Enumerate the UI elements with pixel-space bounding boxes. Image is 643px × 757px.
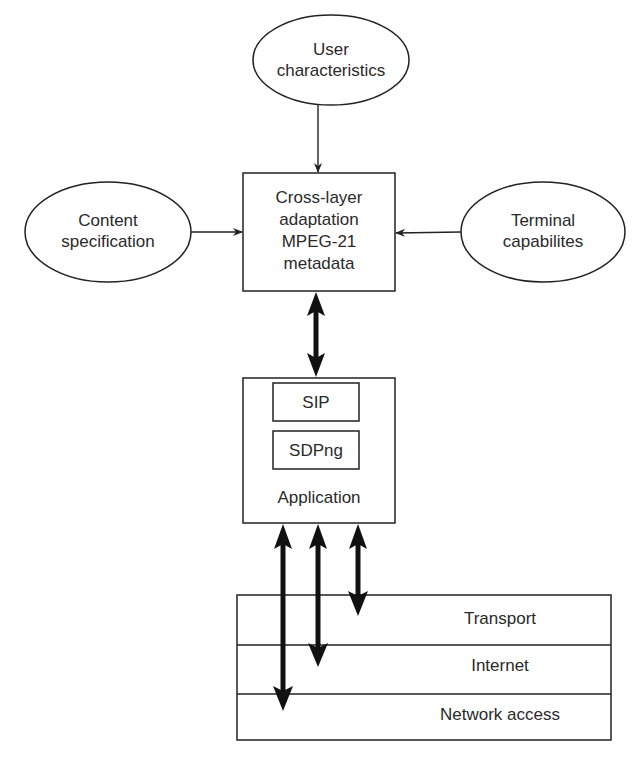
terminal-capabilities-label: Terminal capabilites	[461, 210, 625, 252]
adaptation-line3: MPEG-21	[243, 231, 395, 253]
diagram-canvas	[0, 0, 643, 757]
arrow-terminal-to-adaptation	[396, 232, 461, 233]
sdpng-label: SDPng	[273, 440, 359, 461]
application-label: Application	[243, 487, 395, 508]
terminal-line1: Terminal	[461, 210, 625, 231]
user-line1: User	[253, 39, 409, 60]
layer-internet: Internet	[400, 656, 600, 676]
double-arrow-application-transport	[348, 524, 368, 616]
adaptation-box-label: Cross-layer adaptation MPEG-21 metadata	[243, 187, 395, 275]
adaptation-line2: adaptation	[243, 209, 395, 231]
content-specification-label: Content specification	[25, 210, 191, 252]
content-line2: specification	[25, 231, 191, 252]
adaptation-line1: Cross-layer	[243, 187, 395, 209]
content-line1: Content	[25, 210, 191, 231]
terminal-line2: capabilites	[461, 231, 625, 252]
user-characteristics-label: User characteristics	[253, 39, 409, 81]
layer-transport: Transport	[400, 609, 600, 629]
user-line2: characteristics	[253, 60, 409, 81]
layer-network-access: Network access	[400, 705, 600, 725]
double-arrow-application-network-access	[273, 524, 293, 711]
adaptation-line4: metadata	[243, 253, 395, 275]
double-arrow-adaptation-application	[307, 292, 325, 377]
sip-label: SIP	[273, 392, 359, 413]
